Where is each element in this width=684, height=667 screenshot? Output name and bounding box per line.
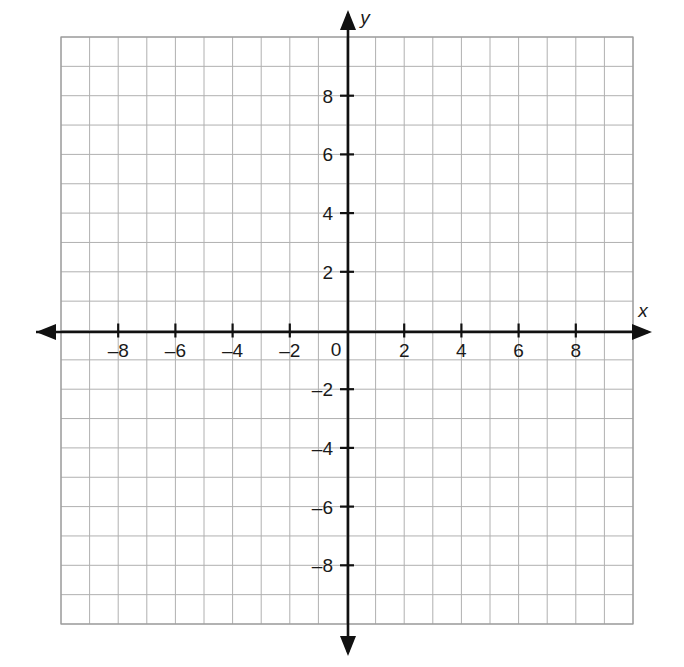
x-axis-label: x [637,300,649,321]
figure-background [0,0,684,667]
y-axis-tick-label: –6 [312,497,333,518]
y-axis-label: y [358,7,371,28]
y-axis-tick-label: 4 [322,203,333,224]
x-axis-tick-label: –2 [279,340,300,361]
x-axis-tick-label: –8 [108,340,129,361]
y-axis-tick-label: –8 [312,555,333,576]
x-axis-tick-label: 2 [399,340,410,361]
coordinate-plane-figure: –8–6–4–224688642–2–4–6–8 0 x y [0,0,684,667]
y-axis-tick-label: 8 [322,86,333,107]
y-axis-tick-label: 6 [322,144,333,165]
y-axis-tick-label: 2 [322,262,333,283]
x-axis-tick-label: 6 [513,340,524,361]
x-axis-tick-label: 4 [456,340,467,361]
x-axis-tick-label: –6 [165,340,186,361]
y-axis-tick-label: –4 [312,438,334,459]
coordinate-plane-svg[interactable]: –8–6–4–224688642–2–4–6–8 0 x y [0,0,684,667]
x-axis-tick-label: 8 [571,340,582,361]
x-axis-tick-label: –4 [222,340,244,361]
origin-label: 0 [331,339,342,360]
y-axis-tick-label: –2 [312,379,333,400]
